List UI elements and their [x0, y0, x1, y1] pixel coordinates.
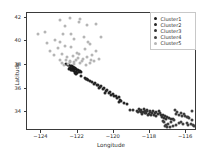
- y-tick-mark: [24, 64, 27, 65]
- y-axis-label: Latitude: [14, 44, 20, 104]
- data-point: [86, 55, 89, 58]
- data-point: [164, 117, 167, 120]
- data-point: [126, 102, 129, 105]
- data-point: [155, 115, 158, 118]
- data-point: [79, 17, 82, 20]
- data-point: [193, 124, 195, 127]
- data-point: [87, 79, 90, 82]
- data-point: [84, 77, 87, 80]
- data-point: [191, 109, 194, 112]
- data-point: [89, 43, 92, 46]
- data-point: [71, 55, 74, 58]
- data-point: [63, 24, 66, 27]
- data-point: [169, 121, 172, 124]
- y-tick-mark: [24, 111, 27, 112]
- data-point: [44, 30, 47, 33]
- x-tick-label: −120: [106, 133, 120, 139]
- data-point: [161, 120, 164, 123]
- y-tick-mark: [24, 88, 27, 89]
- y-tick-mark: [24, 17, 27, 18]
- data-point: [187, 124, 190, 127]
- data-point: [80, 75, 83, 78]
- data-point: [69, 59, 72, 62]
- data-point: [63, 64, 66, 67]
- data-point: [46, 42, 49, 45]
- legend-marker-icon: [154, 29, 157, 32]
- data-point: [146, 113, 149, 116]
- data-point: [60, 53, 63, 56]
- data-point: [83, 48, 86, 51]
- legend-item[interactable]: Cluster5: [154, 40, 193, 46]
- data-point: [86, 40, 89, 43]
- data-point: [173, 119, 176, 122]
- data-point: [69, 69, 72, 72]
- y-tick-label: 34: [14, 108, 21, 114]
- data-point: [95, 50, 98, 53]
- data-point: [88, 62, 91, 65]
- data-point: [100, 35, 103, 38]
- data-point: [182, 112, 185, 115]
- legend-marker-icon: [154, 23, 157, 26]
- data-point: [67, 62, 70, 65]
- data-point: [74, 58, 77, 61]
- data-point: [70, 45, 73, 48]
- x-tick-label: −124: [33, 133, 47, 139]
- x-tick-label: −116: [178, 133, 192, 139]
- data-point: [80, 59, 83, 62]
- data-point: [91, 53, 94, 56]
- data-point: [48, 50, 51, 53]
- legend-marker-icon: [154, 17, 157, 20]
- data-point: [82, 35, 85, 38]
- data-point: [78, 52, 81, 55]
- data-point: [54, 38, 57, 41]
- data-point: [95, 22, 98, 25]
- data-point: [97, 87, 100, 90]
- data-point: [62, 33, 65, 36]
- data-point: [164, 123, 167, 126]
- x-tick-label: −118: [142, 133, 156, 139]
- data-point: [173, 109, 176, 112]
- data-point: [79, 70, 82, 73]
- y-tick-label: 42: [14, 14, 21, 20]
- data-point: [58, 40, 61, 43]
- data-point: [77, 21, 80, 24]
- data-point: [52, 54, 55, 57]
- data-point: [59, 19, 62, 22]
- data-point: [75, 51, 78, 54]
- data-point: [159, 112, 162, 115]
- scatter-plot-figure: −124−122−120−118−116 3436384042 Longitud…: [0, 0, 204, 160]
- y-tick-label: 40: [14, 37, 21, 43]
- data-point: [139, 111, 142, 114]
- data-point: [185, 121, 188, 124]
- y-tick-mark: [24, 40, 27, 41]
- data-point: [72, 63, 75, 66]
- data-point: [85, 23, 88, 26]
- data-point: [36, 33, 39, 36]
- data-point: [69, 33, 72, 36]
- data-point: [69, 17, 72, 20]
- data-point: [97, 57, 100, 60]
- data-point: [118, 100, 121, 103]
- data-point: [181, 123, 184, 126]
- data-point: [92, 82, 95, 85]
- data-point: [75, 72, 78, 75]
- data-point: [113, 95, 116, 98]
- data-point: [56, 46, 59, 49]
- data-point: [84, 63, 87, 66]
- legend-marker-icon: [154, 36, 157, 39]
- data-point: [110, 94, 113, 97]
- data-point: [93, 59, 96, 62]
- data-point: [160, 116, 163, 119]
- legend-item-label: Cluster5: [161, 40, 182, 46]
- data-point: [104, 91, 107, 94]
- x-tick-label: −122: [70, 133, 84, 139]
- data-point: [73, 37, 76, 40]
- data-point: [190, 118, 193, 121]
- x-axis-label: Longitude: [26, 142, 196, 148]
- data-point: [63, 44, 66, 47]
- legend: Cluster1Cluster2Cluster3Cluster4Cluster5: [150, 12, 196, 50]
- legend-marker-icon: [154, 42, 157, 45]
